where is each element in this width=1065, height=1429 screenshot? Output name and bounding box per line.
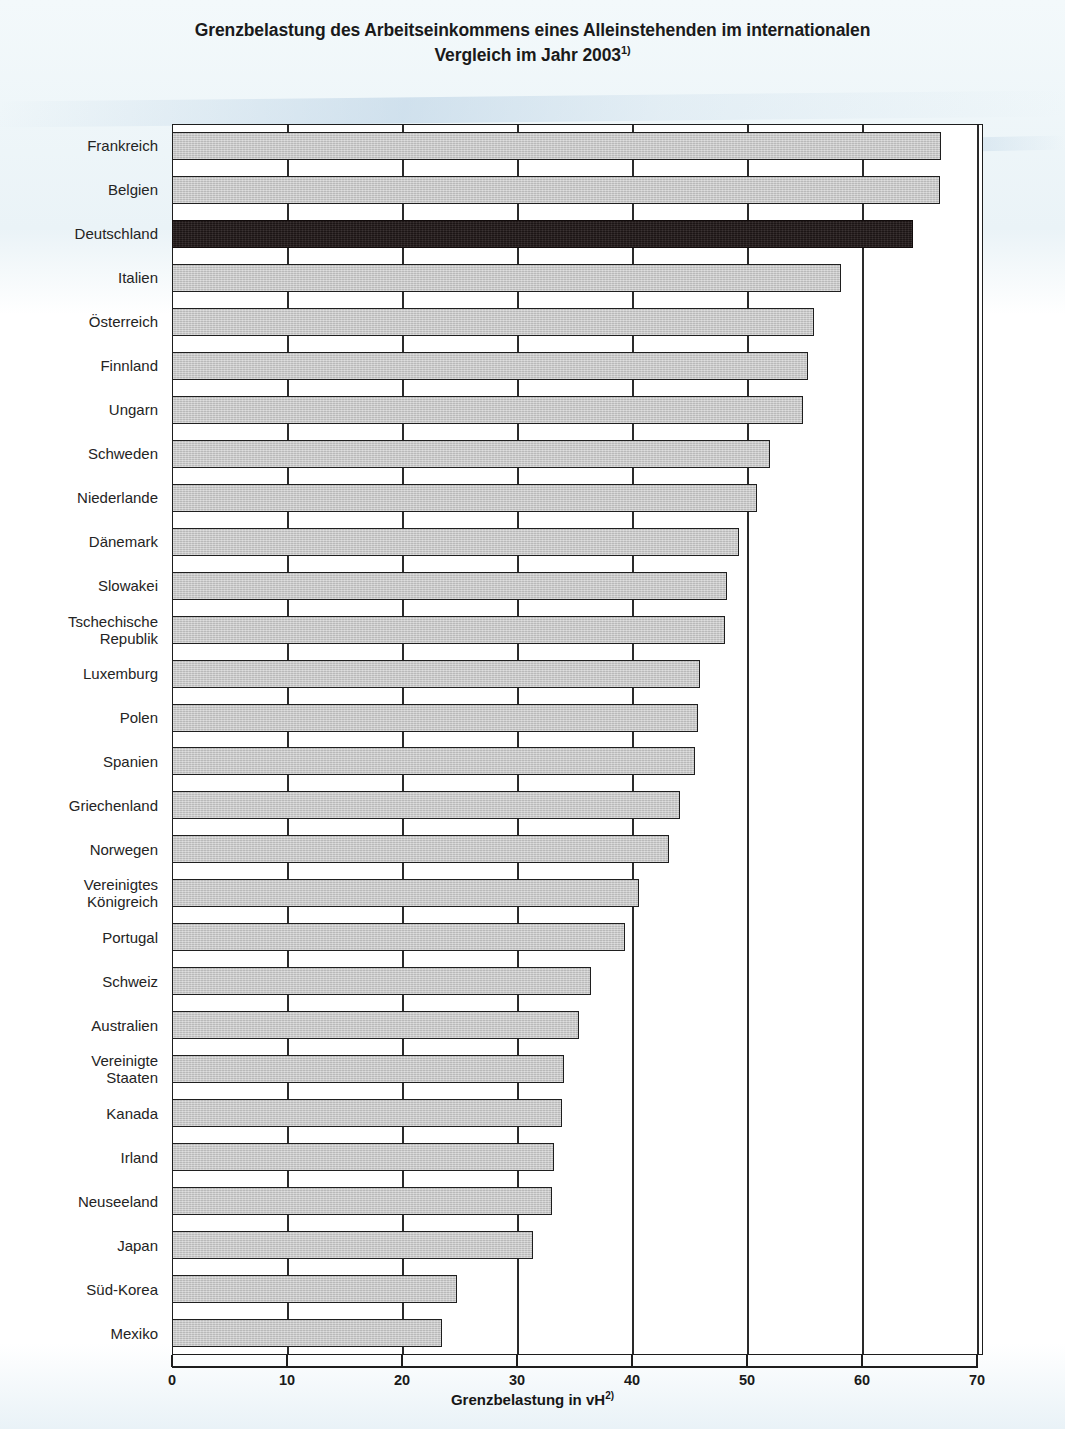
category-label-vereinigtes-königreich: Vereinigtes Königreich	[0, 876, 158, 910]
bar-row	[172, 835, 983, 863]
x-axis-line	[172, 1366, 978, 1368]
bar-tschechische-republik[interactable]	[172, 616, 725, 644]
category-label-portugal: Portugal	[0, 929, 158, 946]
x-tick-label-60: 60	[832, 1372, 892, 1388]
bar-slowakei[interactable]	[172, 572, 727, 600]
bar-japan[interactable]	[172, 1231, 533, 1259]
bar-italien[interactable]	[172, 264, 841, 292]
category-label-süd-korea: Süd-Korea	[0, 1281, 158, 1298]
x-tick-label-30: 30	[487, 1372, 547, 1388]
category-label-norwegen: Norwegen	[0, 841, 158, 858]
chart-sheet: Grenzbelastung des Arbeitseinkommens ein…	[0, 0, 1065, 1429]
bar-griechenland[interactable]	[172, 791, 680, 819]
category-label-kanada: Kanada	[0, 1105, 158, 1122]
bar-norwegen[interactable]	[172, 835, 669, 863]
bar-row	[172, 747, 983, 775]
x-tick-10	[286, 1355, 287, 1367]
category-label-polen: Polen	[0, 709, 158, 726]
x-tick-label-70: 70	[947, 1372, 1007, 1388]
bar-row	[172, 1275, 983, 1303]
bar-mexiko[interactable]	[172, 1319, 442, 1347]
bar-finnland[interactable]	[172, 352, 808, 380]
bar-dänemark[interactable]	[172, 528, 739, 556]
category-label-vereinigte-staaten: Vereinigte Staaten	[0, 1052, 158, 1086]
bar-luxemburg[interactable]	[172, 660, 700, 688]
bar-deutschland[interactable]	[172, 220, 913, 248]
bar-row	[172, 1055, 983, 1083]
bar-neuseeland[interactable]	[172, 1187, 552, 1215]
bar-row	[172, 1187, 983, 1215]
bar-row	[172, 220, 983, 248]
bar-row	[172, 440, 983, 468]
bar-vereinigte-staaten[interactable]	[172, 1055, 564, 1083]
x-axis-title: Grenzbelastung in vH2)	[0, 1391, 1065, 1408]
bar-row	[172, 308, 983, 336]
bar-australien[interactable]	[172, 1011, 579, 1039]
x-tick-20	[401, 1355, 402, 1367]
bar-portugal[interactable]	[172, 923, 625, 951]
category-label-luxemburg: Luxemburg	[0, 665, 158, 682]
chart-title: Grenzbelastung des Arbeitseinkommens ein…	[0, 18, 1065, 68]
bar-rows	[172, 124, 983, 1355]
x-tick-50	[746, 1355, 747, 1367]
bar-österreich[interactable]	[172, 308, 814, 336]
chart-title-line-1: Grenzbelastung des Arbeitseinkommens ein…	[0, 18, 1065, 43]
bar-row	[172, 1099, 983, 1127]
bar-row	[172, 879, 983, 907]
bar-row	[172, 704, 983, 732]
category-label-belgien: Belgien	[0, 181, 158, 198]
bar-row	[172, 264, 983, 292]
bar-row	[172, 484, 983, 512]
category-label-schweiz: Schweiz	[0, 973, 158, 990]
category-label-slowakei: Slowakei	[0, 577, 158, 594]
category-label-australien: Australien	[0, 1017, 158, 1034]
category-label-frankreich: Frankreich	[0, 137, 158, 154]
category-label-italien: Italien	[0, 269, 158, 286]
category-axis-labels: FrankreichBelgienDeutschlandItalienÖster…	[0, 124, 166, 1355]
category-label-tschechische-republik: Tschechische Republik	[0, 613, 158, 647]
bar-row	[172, 1231, 983, 1259]
bar-row	[172, 572, 983, 600]
x-tick-70	[976, 1355, 977, 1367]
chart-title-line-2: Vergleich im Jahr 20031)	[0, 43, 1065, 68]
category-label-neuseeland: Neuseeland	[0, 1193, 158, 1210]
category-label-spanien: Spanien	[0, 753, 158, 770]
category-label-ungarn: Ungarn	[0, 401, 158, 418]
bar-row	[172, 1143, 983, 1171]
bar-frankreich[interactable]	[172, 132, 941, 160]
chart-title-line-2-text: Vergleich im Jahr 2003	[434, 45, 621, 65]
x-tick-40	[631, 1355, 632, 1367]
category-label-dänemark: Dänemark	[0, 533, 158, 550]
bar-ungarn[interactable]	[172, 396, 803, 424]
bar-row	[172, 176, 983, 204]
x-tick-label-40: 40	[602, 1372, 662, 1388]
x-tick-30	[516, 1355, 517, 1367]
bar-row	[172, 791, 983, 819]
category-label-schweden: Schweden	[0, 445, 158, 462]
bar-row	[172, 923, 983, 951]
x-tick-label-20: 20	[372, 1372, 432, 1388]
bar-niederlande[interactable]	[172, 484, 757, 512]
bar-polen[interactable]	[172, 704, 698, 732]
bar-vereinigtes-königreich[interactable]	[172, 879, 639, 907]
bar-row	[172, 396, 983, 424]
category-label-japan: Japan	[0, 1237, 158, 1254]
category-label-mexiko: Mexiko	[0, 1325, 158, 1342]
bar-kanada[interactable]	[172, 1099, 562, 1127]
category-label-niederlande: Niederlande	[0, 489, 158, 506]
x-axis-title-footnote-marker: 2)	[605, 1390, 614, 1401]
category-label-griechenland: Griechenland	[0, 797, 158, 814]
category-label-finnland: Finnland	[0, 357, 158, 374]
x-tick-60	[861, 1355, 862, 1367]
bar-irland[interactable]	[172, 1143, 554, 1171]
bar-schweden[interactable]	[172, 440, 770, 468]
x-tick-label-50: 50	[717, 1372, 777, 1388]
bar-schweiz[interactable]	[172, 967, 591, 995]
bar-süd-korea[interactable]	[172, 1275, 457, 1303]
category-label-deutschland: Deutschland	[0, 225, 158, 242]
bar-belgien[interactable]	[172, 176, 940, 204]
category-label-irland: Irland	[0, 1149, 158, 1166]
bar-spanien[interactable]	[172, 747, 695, 775]
bar-row	[172, 1011, 983, 1039]
bar-row	[172, 967, 983, 995]
